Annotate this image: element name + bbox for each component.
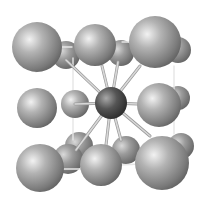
lattice-svg	[0, 0, 204, 203]
atom-bottom-mid	[80, 144, 122, 186]
atom-bottom-left	[16, 144, 64, 192]
atom-top-mid	[74, 24, 116, 66]
center-atom-body-center	[95, 87, 127, 119]
atom-top-left	[12, 22, 62, 72]
center-atom-layer	[95, 87, 127, 119]
atom-top-right	[129, 16, 181, 68]
atom-mid-right	[137, 83, 181, 127]
crystal-lattice-diagram	[0, 0, 204, 203]
atom-mid-left	[17, 88, 57, 128]
atom-bottom-right	[135, 136, 189, 190]
